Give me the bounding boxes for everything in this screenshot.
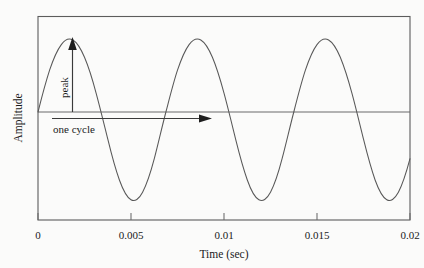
waveform-figure: peak one cycle 0 0.005 0.01 0.015 0.02 T… bbox=[0, 0, 424, 268]
sine-wave-curve bbox=[38, 39, 410, 201]
y-axis-title: Amplitude bbox=[12, 93, 25, 142]
x-tick-label-1: 0.005 bbox=[119, 229, 144, 241]
x-axis-ticks bbox=[38, 213, 410, 220]
one-cycle-label: one cycle bbox=[53, 123, 95, 135]
x-axis-tick-labels: 0 0.005 0.01 0.015 0.02 bbox=[35, 229, 419, 241]
one-cycle-arrow-head-icon bbox=[199, 114, 212, 122]
peak-label: peak bbox=[58, 77, 70, 98]
one-cycle-annotation: one cycle bbox=[52, 114, 212, 135]
figure-svg: peak one cycle 0 0.005 0.01 0.015 0.02 T… bbox=[0, 0, 424, 268]
peak-annotation: peak bbox=[58, 37, 77, 112]
x-axis-title: Time (sec) bbox=[199, 248, 248, 261]
x-tick-label-0: 0 bbox=[35, 229, 41, 241]
x-tick-label-4: 0.02 bbox=[400, 229, 419, 241]
x-tick-label-3: 0.015 bbox=[305, 229, 330, 241]
x-tick-label-2: 0.01 bbox=[214, 229, 233, 241]
